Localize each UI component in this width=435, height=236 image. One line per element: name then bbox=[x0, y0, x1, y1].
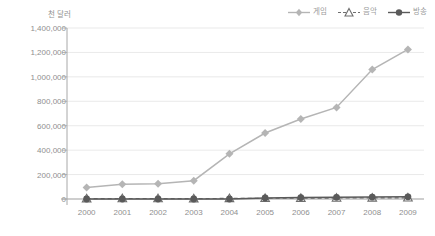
x-axis-tick-label: 2006 bbox=[292, 208, 310, 217]
x-axis-tick-label: 2008 bbox=[363, 208, 381, 217]
data-point-marker bbox=[190, 196, 197, 203]
data-point-marker bbox=[118, 180, 126, 188]
series-line bbox=[87, 49, 408, 187]
x-axis-tick-label: 2003 bbox=[185, 208, 203, 217]
data-point-marker bbox=[261, 129, 269, 137]
data-point-marker bbox=[262, 195, 269, 202]
data-point-marker bbox=[405, 193, 412, 200]
data-point-marker bbox=[119, 196, 126, 203]
data-point-marker bbox=[297, 194, 304, 201]
x-axis-tick-label: 2001 bbox=[113, 208, 131, 217]
x-axis-tick-label: 2000 bbox=[78, 208, 96, 217]
data-point-marker bbox=[83, 183, 91, 191]
x-axis-tick-label: 2004 bbox=[221, 208, 239, 217]
chart-container: 게임 음악 방송 천 달러 1,400,0001,200,0001,000,00… bbox=[0, 0, 435, 236]
plot-area bbox=[0, 0, 435, 236]
data-point-marker bbox=[333, 194, 340, 201]
x-axis-tick-label: 2002 bbox=[149, 208, 167, 217]
data-point-marker bbox=[154, 180, 162, 188]
x-axis-tick-label: 2007 bbox=[328, 208, 346, 217]
data-point-marker bbox=[226, 196, 233, 203]
data-point-marker bbox=[369, 194, 376, 201]
x-axis-tick-label: 2009 bbox=[399, 208, 417, 217]
data-point-marker bbox=[155, 196, 162, 203]
data-point-marker bbox=[83, 196, 90, 203]
data-point-marker bbox=[297, 115, 305, 123]
x-axis-tick-label: 2005 bbox=[256, 208, 274, 217]
